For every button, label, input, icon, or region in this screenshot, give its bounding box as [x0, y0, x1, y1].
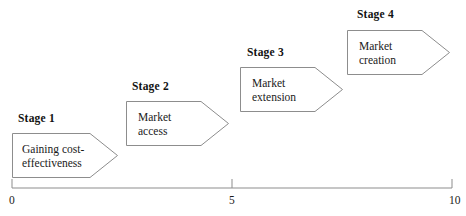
stage-title-label: Stage 1	[18, 112, 55, 124]
stage-chevron-svg	[347, 30, 450, 75]
stage-chevron: Gaining cost- effectiveness	[12, 133, 118, 178]
stage-chevron: Market access	[126, 101, 229, 146]
stage-title-label: Stage 3	[247, 46, 284, 58]
stage-chevron-outline	[13, 134, 118, 178]
stage-chevron: Market creation	[347, 30, 450, 75]
stage-chevron-svg	[240, 67, 343, 112]
stage-chevron: Market extension	[240, 67, 343, 112]
stage-chevron-outline	[127, 102, 229, 146]
stage-diagram: 0510 Stage 1Gaining cost- effectivenessS…	[0, 0, 466, 216]
stage-chevron-svg	[12, 133, 118, 178]
axis-tick-label: 10	[449, 194, 461, 206]
axis-geometry	[12, 179, 452, 188]
stage-chevron-outline	[348, 31, 450, 75]
stage-chevron-outline	[241, 68, 343, 112]
axis-tick-label: 5	[229, 194, 235, 206]
axis-tick-label: 0	[9, 194, 15, 206]
stage-chevron-svg	[126, 101, 229, 146]
stage-title-label: Stage 4	[357, 8, 394, 20]
stage-title-label: Stage 2	[132, 80, 169, 92]
